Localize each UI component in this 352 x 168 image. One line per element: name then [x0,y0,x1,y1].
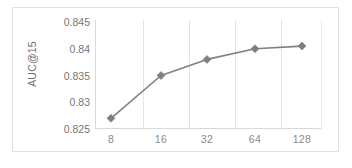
data-point-64 [251,45,259,53]
chart-figure: AUC@15 0.845 0.84 0.835 0.83 0.825 8 16 … [0,0,352,168]
data-point-32 [203,55,211,63]
data-series-layer [0,0,352,168]
series-markers [107,42,306,122]
data-point-128 [298,42,306,50]
